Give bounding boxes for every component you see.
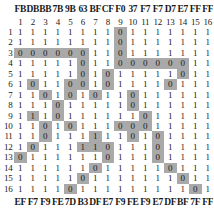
matrix-cell: 0 [27,79,40,89]
matrix-cell: 1 [114,163,127,173]
matrix-cell: 1 [64,173,77,183]
matrix-cell: 1 [64,131,77,141]
matrix-cell: 1 [64,142,77,152]
matrix-cell: 1 [39,152,52,162]
matrix-cell: 1 [177,90,190,100]
matrix-cell: 1 [189,131,202,141]
matrix-cell: 1 [189,27,202,37]
matrix-row: 121011111011101111 [1,142,212,152]
matrix-cell: 1 [189,121,202,131]
column-index-label: 12 [152,17,165,27]
matrix-cell: 1 [77,131,90,141]
matrix-cell: 0 [39,121,52,131]
matrix-cell: 1 [114,131,127,141]
hex-bottom-label: F9 [114,197,127,208]
matrix-cell: 1 [152,100,165,110]
matrix-cell: 1 [102,163,115,173]
matrix-cell: 1 [177,152,190,162]
matrix-cell: 1 [177,79,190,89]
matrix-cell: 1 [114,184,127,194]
matrix-cell: 1 [39,100,52,110]
matrix-row: 71101010110111111 [1,90,212,100]
matrix-cell: 0 [189,184,202,194]
hex-bottom-label: FE [52,197,65,208]
matrix-cell: 1 [14,58,27,68]
matrix-cell: 1 [102,48,115,58]
matrix-cell: 1 [114,79,127,89]
column-index-row: 12345678910111213141516 [1,15,212,27]
matrix-cell: 1 [164,152,177,162]
matrix-cell: 1 [27,163,40,173]
matrix-cell: 1 [27,69,40,79]
matrix-cell: 1 [52,69,65,79]
hex-bottom-label: B3 [77,197,90,208]
matrix-cell: 0 [139,121,152,131]
matrix-cell: 0 [177,58,190,68]
matrix-cell: 1 [14,90,27,100]
matrix-cell: 0 [102,142,115,152]
matrix-cell: 1 [139,152,152,162]
matrix-cell: 0 [64,79,77,89]
matrix-cell: 1 [189,69,202,79]
matrix-cell: 0 [77,58,90,68]
matrix-cell: 1 [127,27,140,37]
matrix-cell: 1 [202,163,214,173]
matrix-cell: 1 [52,37,65,47]
matrix-cell: 1 [14,184,27,194]
matrix-cell: 1 [189,163,202,173]
matrix-cell: 1 [52,79,65,89]
matrix-cell: 1 [77,163,90,173]
matrix-cell: 1 [52,121,65,131]
hex-top-label: 7B [52,4,65,15]
matrix-cell: 1 [52,27,65,37]
matrix-cell: 0 [139,111,152,121]
matrix-cell: 0 [77,173,90,183]
matrix-cell: 0 [64,90,77,100]
column-index-label: 5 [64,17,77,27]
matrix-cell: 1 [52,163,65,173]
matrix-cell: 0 [152,142,165,152]
matrix-cell: 0 [39,48,52,58]
hex-top-label: FB [14,4,27,15]
matrix-cell: 0 [102,79,115,89]
matrix-cell: 1 [52,142,65,152]
matrix-cell: 1 [39,79,52,89]
matrix-cell: 1 [102,131,115,141]
matrix-cell: 0 [152,152,165,162]
matrix-cell: 0 [14,152,27,162]
matrix-cell: 1 [177,111,190,121]
matrix-cell: 1 [202,48,214,58]
hex-bottom-label: 7D [64,197,77,208]
hex-bottom-label: DF [164,197,177,208]
matrix-cell: 1 [27,184,40,194]
matrix-cell: 1 [127,173,140,183]
matrix-cell: 1 [52,184,65,194]
matrix-cell: 1 [189,152,202,162]
matrix-cell: 1 [139,27,152,37]
matrix-cell: 1 [189,142,202,152]
matrix-cell: 1 [77,27,90,37]
hex-top-label: BF [89,4,102,15]
row-index-label: 9 [1,111,14,121]
matrix-cell: 0 [89,90,102,100]
matrix-cell: 1 [102,100,115,110]
matrix-cell: 1 [164,100,177,110]
matrix-row: 61011001011110111 [1,79,212,89]
matrix-cell: 0 [27,48,40,58]
matrix-cell: 1 [27,58,40,68]
row-index-label: 16 [1,184,14,194]
hex-bottom-label: F7 [27,197,40,208]
matrix-cell: 1 [14,69,27,79]
matrix-cell: 1 [127,79,140,89]
matrix-cell: 1 [114,111,127,121]
row-index-label: 6 [1,79,14,89]
matrix-cell: 0 [14,48,27,58]
matrix-cell: 1 [14,121,27,131]
matrix-cell: 1 [164,37,177,47]
matrix-cell: 1 [14,163,27,173]
matrix-cell: 0 [27,142,40,152]
matrix-cell: 1 [39,184,52,194]
matrix-cell: 1 [52,131,65,141]
matrix-cell: 1 [89,184,102,194]
matrix-cell: 1 [14,131,27,141]
